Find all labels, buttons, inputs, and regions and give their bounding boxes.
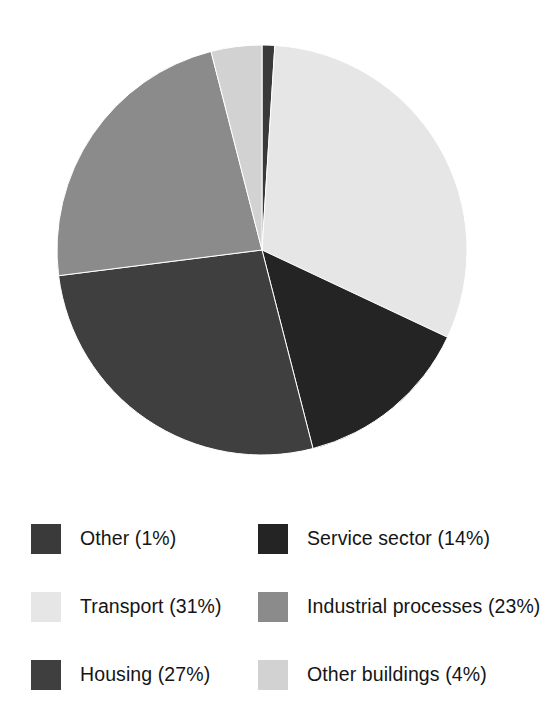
legend-swatch-industrial-processes — [258, 592, 288, 622]
legend-label-service-sector: Service sector (14%) — [307, 529, 490, 549]
pie-slice-group — [57, 45, 467, 455]
legend-label-industrial-processes: Industrial processes (23%) — [307, 597, 540, 617]
legend-label-other: Other (1%) — [80, 529, 176, 549]
legend-item-other-buildings[interactable]: Other buildings (4%) — [227, 655, 552, 695]
legend-swatch-other — [31, 524, 61, 554]
legend-item-housing[interactable]: Housing (27%) — [0, 655, 227, 695]
legend-label-transport: Transport (31%) — [80, 597, 222, 617]
chart-legend: Other (1%) Service sector (14%) Transpor… — [0, 505, 552, 710]
legend-swatch-housing — [31, 660, 61, 690]
legend-item-transport[interactable]: Transport (31%) — [0, 587, 227, 627]
pie-chart-svg — [0, 0, 552, 490]
legend-swatch-transport — [31, 592, 61, 622]
pie-chart-plot-area — [0, 0, 552, 490]
legend-swatch-other-buildings — [258, 660, 288, 690]
legend-label-housing: Housing (27%) — [80, 665, 210, 685]
legend-item-industrial-processes[interactable]: Industrial processes (23%) — [227, 587, 552, 627]
legend-swatch-service-sector — [258, 524, 288, 554]
pie-chart-figure: Other (1%) Service sector (14%) Transpor… — [0, 0, 552, 714]
legend-item-service-sector[interactable]: Service sector (14%) — [227, 519, 552, 559]
legend-label-other-buildings: Other buildings (4%) — [307, 665, 487, 685]
legend-item-other[interactable]: Other (1%) — [0, 519, 227, 559]
